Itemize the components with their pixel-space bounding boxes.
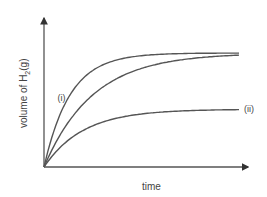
chart: time volume of H2(g) (i)(ii) bbox=[0, 0, 267, 197]
series-label-1: (i) bbox=[58, 93, 66, 103]
x-axis-label: time bbox=[142, 181, 161, 192]
y-axis-label: volume of H2(g) bbox=[18, 59, 31, 129]
series-label-3: (ii) bbox=[244, 104, 254, 114]
series-line-2 bbox=[44, 55, 239, 167]
series-line-3 bbox=[44, 110, 239, 167]
